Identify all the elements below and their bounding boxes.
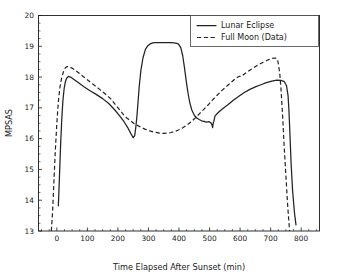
x-tick-label-600: 600 xyxy=(233,234,247,243)
figure-canvas: 0100200300400500600700800 13141516171819… xyxy=(0,0,338,278)
y-tick-label-18: 18 xyxy=(25,73,35,82)
legend-label-full-moon: Full Moon (Data) xyxy=(221,33,287,42)
x-axis-ticks xyxy=(57,228,301,232)
y-tick-label-14: 14 xyxy=(25,196,35,205)
axes-frame xyxy=(39,16,320,232)
series-line-full-moon-data xyxy=(51,58,289,231)
y-tick-label-16: 16 xyxy=(25,134,35,143)
chart-legend: Lunar Eclipse Full Moon (Data) xyxy=(191,16,319,47)
x-tick-label-200: 200 xyxy=(111,234,125,243)
x-axis-tick-labels: 0100200300400500600700800 xyxy=(54,234,308,243)
x-tick-label-400: 400 xyxy=(172,234,186,243)
y-tick-label-17: 17 xyxy=(25,103,35,112)
y-tick-label-20: 20 xyxy=(25,11,35,20)
data-series-layer xyxy=(51,43,296,231)
x-tick-label-300: 300 xyxy=(141,234,155,243)
x-tick-label-0: 0 xyxy=(54,234,59,243)
y-tick-label-19: 19 xyxy=(25,42,35,51)
y-axis-title: MPSAS xyxy=(4,109,14,137)
legend-label-lunar-eclipse: Lunar Eclipse xyxy=(221,21,274,30)
x-tick-label-700: 700 xyxy=(264,234,278,243)
y-tick-label-15: 15 xyxy=(25,165,35,174)
x-axis-title: Time Elapsed After Sunset (min) xyxy=(112,262,245,272)
series-line-lunar-eclipse xyxy=(58,43,296,225)
x-tick-label-800: 800 xyxy=(294,234,308,243)
line-chart: 0100200300400500600700800 13141516171819… xyxy=(0,0,338,278)
x-tick-label-500: 500 xyxy=(202,234,216,243)
x-tick-label-100: 100 xyxy=(80,234,94,243)
y-axis-tick-labels: 1314151617181920 xyxy=(25,11,35,236)
y-tick-label-13: 13 xyxy=(25,227,35,236)
plot-area-border xyxy=(39,16,320,232)
